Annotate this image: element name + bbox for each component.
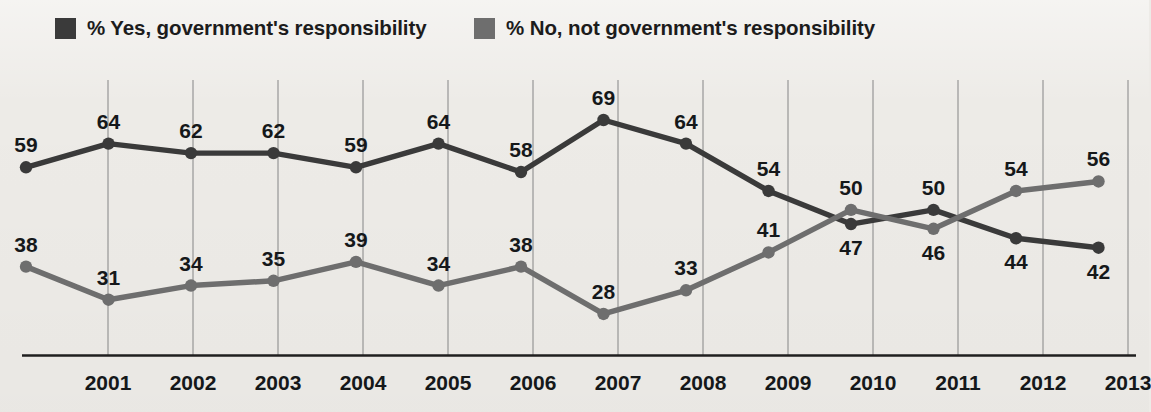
x-axis-tick-label: 2012 <box>1020 372 1067 393</box>
data-point-label: 54 <box>1004 158 1027 179</box>
data-point-label: 64 <box>427 111 450 132</box>
x-axis-tick-label: 2001 <box>85 372 132 393</box>
data-point-label: 59 <box>14 134 37 155</box>
x-axis-tick-label: 2005 <box>425 372 472 393</box>
x-axis-tick-label: 2008 <box>680 372 727 393</box>
data-point-label: 38 <box>14 234 37 255</box>
data-point-label: 34 <box>427 253 450 274</box>
x-axis-tick-label: 2006 <box>510 372 557 393</box>
data-point-label: 46 <box>922 242 945 263</box>
data-point-label: 69 <box>592 87 615 108</box>
data-point-label: 64 <box>674 111 697 132</box>
data-point-label: 62 <box>179 120 202 141</box>
data-point-label: 47 <box>839 237 862 258</box>
data-point-label: 42 <box>1087 261 1110 282</box>
x-axis-tick-label: 2009 <box>765 372 812 393</box>
x-axis-tick-label: 2002 <box>170 372 217 393</box>
x-axis-tick-label: 2007 <box>595 372 642 393</box>
data-point-label: 50 <box>839 177 862 198</box>
data-point-label: 54 <box>757 158 780 179</box>
data-point-label: 28 <box>592 281 615 302</box>
x-axis-tick-label: 2003 <box>255 372 302 393</box>
data-point-label: 56 <box>1087 148 1110 169</box>
data-point-label: 38 <box>509 234 532 255</box>
x-axis-tick-label: 2004 <box>340 372 387 393</box>
x-axis-tick-label: 2013 <box>1105 372 1151 393</box>
data-point-label: 31 <box>97 267 120 288</box>
x-axis-tick-label: 2010 <box>850 372 897 393</box>
data-point-label: 35 <box>262 248 285 269</box>
data-point-label: 33 <box>674 257 697 278</box>
data-point-label: 39 <box>344 229 367 250</box>
data-point-label: 58 <box>509 139 532 160</box>
data-point-label: 62 <box>262 120 285 141</box>
data-point-label: 59 <box>344 134 367 155</box>
data-point-label: 41 <box>757 219 780 240</box>
data-point-label: 44 <box>1004 251 1027 272</box>
data-point-label: 34 <box>179 253 202 274</box>
data-point-label: 50 <box>922 177 945 198</box>
data-point-label: 64 <box>97 111 120 132</box>
x-axis-tick-label: 2011 <box>935 372 981 393</box>
